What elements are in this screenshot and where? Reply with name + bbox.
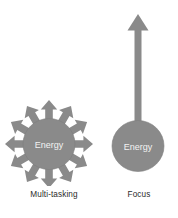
radial-arrow-icon bbox=[41, 100, 57, 120]
caption-focus: Focus bbox=[96, 190, 178, 200]
multi-tasking-graphic: Energy bbox=[0, 0, 96, 186]
focus-graphic: Energy bbox=[96, 0, 178, 186]
energy-label-focus: Energy bbox=[124, 142, 153, 152]
panel-focus: Energy Focus bbox=[96, 0, 178, 218]
radial-arrow-icon bbox=[73, 136, 93, 152]
radial-arrow-icon bbox=[5, 136, 25, 152]
diagram-canvas: Energy Multi-tasking Energy Focus bbox=[0, 0, 178, 218]
panel-multi-tasking: Energy Multi-tasking bbox=[0, 0, 96, 218]
radial-arrow-icon bbox=[41, 168, 57, 186]
energy-label-multi-tasking: Energy bbox=[35, 140, 64, 150]
caption-multi-tasking: Multi-tasking bbox=[0, 190, 102, 200]
